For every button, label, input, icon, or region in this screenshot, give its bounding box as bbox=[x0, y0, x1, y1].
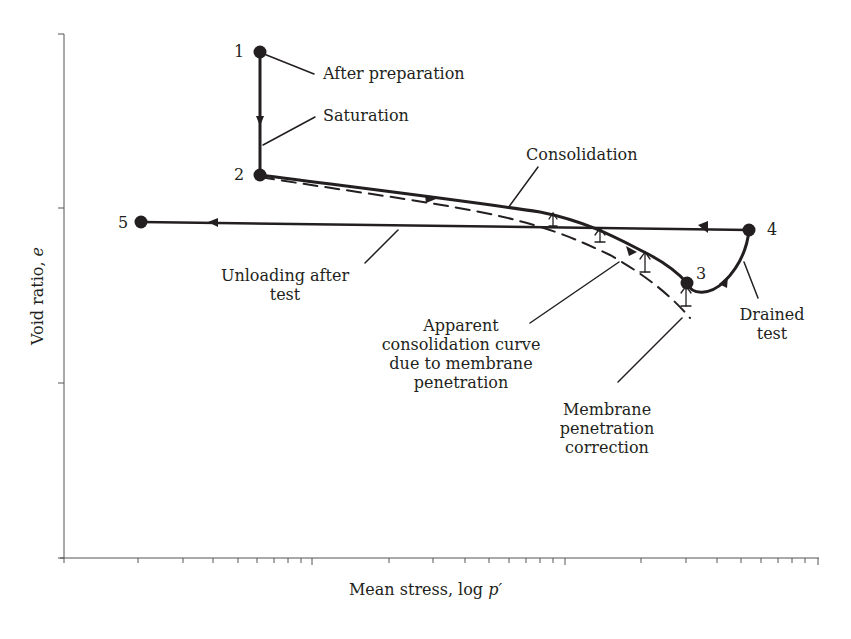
label-unloading: Unloading after test bbox=[205, 266, 365, 304]
point-label-5: 5 bbox=[118, 213, 128, 232]
arrow-left-icon bbox=[208, 218, 218, 227]
x-axis-label: Mean stress, log p′ bbox=[0, 580, 851, 599]
y-axis-label: Void ratio, e bbox=[28, 247, 47, 345]
label-consolidation: Consolidation bbox=[526, 145, 638, 164]
point-2 bbox=[254, 169, 267, 182]
label-membrane-line1: Membrane bbox=[552, 400, 662, 419]
point-3 bbox=[681, 277, 694, 290]
label-drained-line2: test bbox=[732, 324, 812, 343]
label-apparent-line4: penetration bbox=[376, 373, 546, 392]
label-unloading-line2: test bbox=[205, 285, 365, 304]
x-ticks bbox=[64, 558, 818, 565]
label-apparent-line2: consolidation curve bbox=[376, 335, 546, 354]
label-apparent-line3: due to membrane bbox=[376, 354, 546, 373]
unloading-path bbox=[141, 222, 749, 230]
label-membrane-line2: penetration bbox=[552, 419, 662, 438]
y-axis-label-var: e bbox=[28, 247, 47, 256]
y-axis-label-text: Void ratio, bbox=[28, 256, 47, 345]
axes bbox=[58, 34, 819, 565]
point-5 bbox=[135, 216, 148, 229]
arrow-left-icon bbox=[698, 221, 708, 233]
label-drained-line1: Drained bbox=[732, 305, 812, 324]
point-label-1: 1 bbox=[234, 42, 244, 61]
label-after-preparation: After preparation bbox=[323, 64, 465, 83]
label-membrane-correction: Membrane penetration correction bbox=[552, 400, 662, 457]
point-4 bbox=[743, 224, 756, 237]
label-apparent-consolidation: Apparent consolidation curve due to memb… bbox=[376, 316, 546, 392]
point-1 bbox=[254, 46, 267, 59]
label-membrane-line3: correction bbox=[552, 438, 662, 457]
label-saturation: Saturation bbox=[323, 106, 409, 125]
label-apparent-line1: Apparent bbox=[376, 316, 546, 335]
label-unloading-line1: Unloading after bbox=[205, 266, 365, 285]
arrow-down-icon bbox=[256, 116, 264, 126]
point-label-2: 2 bbox=[234, 165, 244, 184]
x-axis-label-var: p′ bbox=[488, 580, 502, 599]
point-label-3: 3 bbox=[696, 264, 706, 283]
label-drained-test: Drained test bbox=[732, 305, 812, 343]
point-label-4: 4 bbox=[767, 220, 777, 239]
x-axis-label-text: Mean stress, log bbox=[349, 580, 488, 599]
